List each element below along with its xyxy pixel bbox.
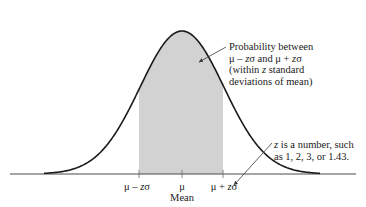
- text: μ –: [124, 181, 140, 192]
- mean-label: Mean: [170, 192, 194, 204]
- text: (within: [229, 64, 262, 75]
- text: μ –: [229, 53, 245, 64]
- text: σ and μ +: [249, 53, 292, 64]
- text: σ: [296, 53, 302, 64]
- annotation-line-1: Probability between: [229, 41, 313, 53]
- annotation-probability-between: Probability between μ – zσ and μ + zσ (w…: [229, 41, 313, 87]
- annotation-line-3: (within z standard: [229, 64, 313, 76]
- text: standard: [266, 64, 304, 75]
- tick-label-mu-plus-z-sigma: μ + zσ: [211, 181, 238, 193]
- annotation-line-4: deviations of mean): [229, 76, 313, 88]
- annotation-line-1: z is a number, such: [274, 139, 354, 151]
- text: is a number, such: [278, 139, 354, 150]
- arrow-to-z-sigma-icon: [234, 143, 272, 185]
- text: σ: [232, 181, 238, 192]
- annotation-z-is-a-number: z is a number, such as 1, 2, 3, or 1.43.: [274, 139, 354, 162]
- text: μ: [179, 181, 185, 192]
- text: σ: [144, 181, 150, 192]
- text: μ +: [211, 181, 228, 192]
- annotation-line-2: μ – zσ and μ + zσ: [229, 53, 313, 65]
- tick-label-mu-minus-z-sigma: μ – zσ: [124, 181, 150, 193]
- normal-distribution-diagram: [0, 0, 366, 207]
- annotation-line-2: as 1, 2, 3, or 1.43.: [274, 151, 354, 163]
- shaded-probability-region: [139, 31, 223, 174]
- tick-label-mu: μ: [179, 181, 185, 193]
